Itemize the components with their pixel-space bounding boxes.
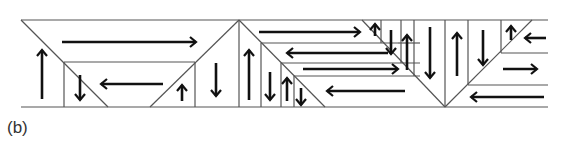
arrow-up-icon <box>452 33 462 76</box>
arrow-up-icon <box>37 50 47 99</box>
arrow-right-icon <box>303 64 398 74</box>
flow-arrows <box>37 24 546 105</box>
arrow-down-icon <box>478 30 488 65</box>
arrow-down-icon <box>265 72 275 100</box>
arrow-up-icon <box>244 50 254 100</box>
arrow-right-icon <box>503 64 537 74</box>
arrow-left-icon <box>101 79 163 89</box>
arrow-up-icon <box>177 85 187 101</box>
arrow-right-icon <box>62 37 196 47</box>
arrow-left-icon <box>525 33 546 43</box>
flow-diagram <box>0 0 578 145</box>
arrow-left-icon <box>287 48 388 58</box>
arrow-down-icon <box>75 75 85 100</box>
arrow-right-icon <box>259 27 360 37</box>
arrow-down-icon <box>211 63 221 96</box>
arrow-up-icon <box>402 35 412 70</box>
arrow-down-icon <box>296 88 306 105</box>
arrow-left-icon <box>471 92 544 102</box>
arrow-down-icon <box>425 27 435 78</box>
arrow-up-icon <box>282 78 292 101</box>
arrow-down-icon <box>386 30 396 54</box>
figure-caption: (b) <box>7 118 28 138</box>
arrow-left-icon <box>327 86 405 96</box>
